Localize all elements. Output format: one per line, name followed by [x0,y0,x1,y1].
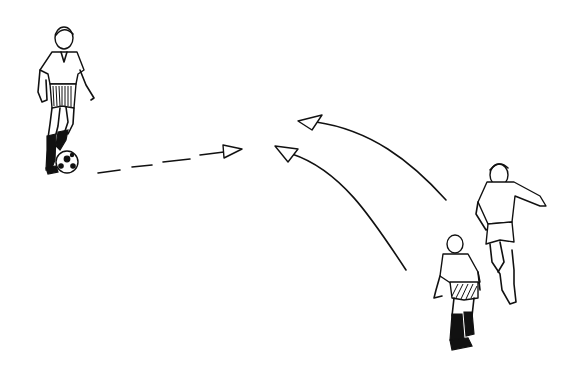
diagram-canvas: Soccer passing drill illustration [0,0,576,377]
drill-illustration [0,0,576,377]
run-arrow-upper [298,115,446,200]
pass-arrow [98,145,242,173]
player-2-figure [476,164,546,304]
run-arrow-lower [275,146,406,270]
player-3-figure [434,235,480,350]
ball-figure [56,151,78,173]
